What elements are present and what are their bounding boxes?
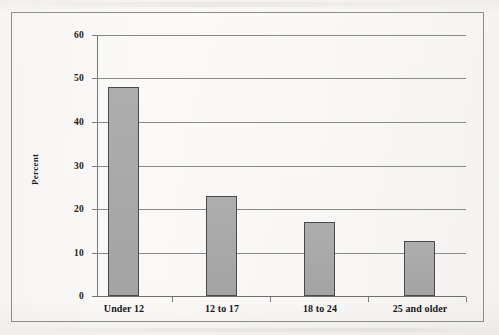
x-label-12-to-17: 12 to 17: [178, 303, 266, 314]
y-tick-mark-10: [92, 253, 97, 254]
bar-18-to-24: [304, 222, 335, 296]
x-label-under-12: Under 12: [80, 303, 168, 314]
y-tick-mark-0: [92, 296, 97, 297]
gridline-50: [97, 78, 466, 79]
x-label-18-to-24: 18 to 24: [276, 303, 364, 314]
x-tick-mark-2: [270, 297, 271, 302]
y-tick-label-60: 60: [58, 30, 84, 40]
y-axis-title: Percent: [30, 143, 44, 195]
y-tick-mark-30: [92, 166, 97, 167]
y-tick-label-50: 50: [58, 73, 84, 83]
y-tick-label-10: 10: [58, 248, 84, 258]
x-label-25-and-older: 25 and older: [370, 303, 470, 314]
axis-baseline-0: [97, 296, 466, 297]
y-tick-label-40: 40: [58, 117, 84, 127]
y-tick-mark-50: [92, 78, 97, 79]
y-tick-mark-40: [92, 122, 97, 123]
bar-chart: Percent 60 50 40 30 20 10 0 Under 12 12 …: [0, 0, 499, 335]
gridline-60: [97, 35, 466, 36]
gridline-40: [97, 122, 466, 123]
gridline-20: [97, 209, 466, 210]
bar-25-and-older: [404, 241, 435, 296]
bar-under-12: [108, 87, 139, 296]
x-tick-mark-3: [368, 297, 369, 302]
gridline-30: [97, 166, 466, 167]
bar-12-to-17: [206, 196, 237, 296]
y-tick-label-0: 0: [58, 291, 84, 301]
y-tick-label-30: 30: [58, 161, 84, 171]
y-tick-label-20: 20: [58, 204, 84, 214]
x-tick-mark-1: [172, 297, 173, 302]
y-tick-mark-60: [92, 35, 97, 36]
y-tick-mark-20: [92, 209, 97, 210]
x-tick-mark-4: [466, 297, 467, 302]
